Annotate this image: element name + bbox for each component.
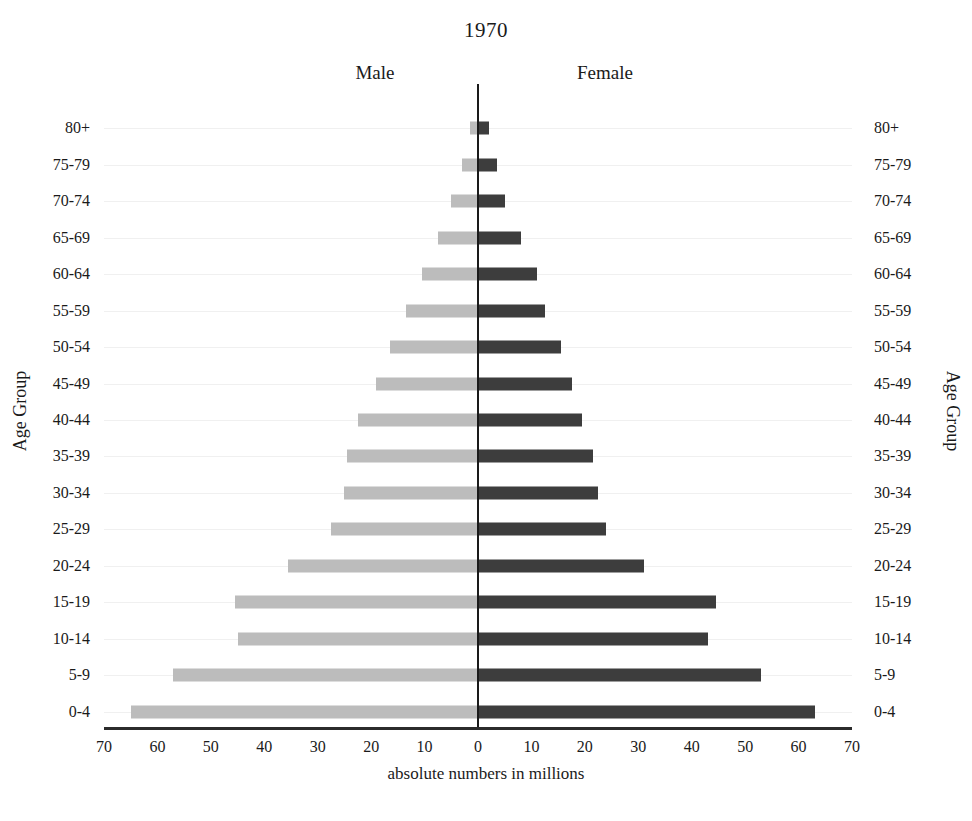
x-axis-tick-label: 30 (630, 738, 646, 756)
x-axis-tick-label: 0 (474, 738, 482, 756)
age-group-label-left: 45-49 (53, 375, 90, 393)
age-group-label-left: 40-44 (53, 411, 90, 429)
age-group-label-right: 35-39 (874, 447, 911, 465)
age-group-label-left: 0-4 (69, 703, 90, 721)
age-group-label-right: 10-14 (874, 630, 911, 648)
bar-female (478, 341, 561, 354)
age-group-label-left: 55-59 (53, 302, 90, 320)
bar-male (173, 669, 478, 682)
bar-male (406, 304, 478, 317)
x-axis-tick-label: 60 (149, 738, 165, 756)
age-group-label-right: 0-4 (874, 703, 895, 721)
x-axis-tick-label: 20 (363, 738, 379, 756)
x-axis-tick-label: 50 (203, 738, 219, 756)
age-group-label-right: 65-69 (874, 229, 911, 247)
bar-female (478, 450, 593, 463)
male-series-label: Male (300, 62, 450, 84)
bar-female (478, 669, 761, 682)
x-axis-tick-label: 10 (417, 738, 433, 756)
bar-female (478, 559, 644, 572)
age-group-label-right: 20-24 (874, 557, 911, 575)
bar-male (451, 195, 478, 208)
bar-male (422, 268, 478, 281)
age-group-label-left: 80+ (65, 119, 90, 137)
bar-female (478, 158, 497, 171)
bar-female (478, 377, 572, 390)
plot-area: 0-40-45-95-910-1410-1415-1915-1920-2420-… (104, 110, 852, 730)
age-group-label-left: 50-54 (53, 338, 90, 356)
age-group-label-right: 5-9 (874, 666, 895, 684)
age-group-label-left: 5-9 (69, 666, 90, 684)
bar-female (478, 231, 521, 244)
bar-male (358, 413, 478, 426)
age-group-label-right: 55-59 (874, 302, 911, 320)
age-group-label-left: 30-34 (53, 484, 90, 502)
population-pyramid-chart: 1970 Male Female Age Group Age Group 0-4… (0, 0, 972, 821)
bar-male (288, 559, 478, 572)
bar-female (478, 195, 505, 208)
bar-female (478, 122, 489, 135)
age-group-label-right: 30-34 (874, 484, 911, 502)
chart-title: 1970 (0, 18, 972, 43)
bar-female (478, 304, 545, 317)
age-group-label-right: 60-64 (874, 265, 911, 283)
age-group-label-left: 35-39 (53, 447, 90, 465)
bar-female (478, 268, 537, 281)
age-group-label-right: 80+ (874, 119, 899, 137)
bar-male (331, 523, 478, 536)
bar-female (478, 632, 708, 645)
bar-female (478, 596, 716, 609)
x-axis-baseline (104, 727, 852, 730)
age-group-label-right: 45-49 (874, 375, 911, 393)
age-group-label-right: 25-29 (874, 520, 911, 538)
bar-female (478, 705, 815, 718)
bar-male (235, 596, 478, 609)
x-axis-tick-label: 10 (523, 738, 539, 756)
bar-male (462, 158, 478, 171)
age-group-label-right: 40-44 (874, 411, 911, 429)
x-axis-tick-label: 40 (256, 738, 272, 756)
age-group-label-left: 60-64 (53, 265, 90, 283)
bar-female (478, 413, 582, 426)
age-group-label-right: 15-19 (874, 593, 911, 611)
age-group-label-right: 70-74 (874, 192, 911, 210)
x-axis-tick-label: 70 (96, 738, 112, 756)
bar-female (478, 523, 606, 536)
y-axis-title-right: Age Group (941, 370, 962, 450)
female-series-label: Female (530, 62, 680, 84)
age-group-label-left: 25-29 (53, 520, 90, 538)
x-axis-tick-label: 60 (791, 738, 807, 756)
age-group-label-left: 10-14 (53, 630, 90, 648)
x-axis-tick-label: 50 (737, 738, 753, 756)
x-axis-title: absolute numbers in millions (0, 764, 972, 784)
bar-male (390, 341, 478, 354)
age-group-label-left: 70-74 (53, 192, 90, 210)
y-axis-title-left: Age Group (10, 370, 31, 450)
bar-male (344, 486, 478, 499)
x-axis-tick-label: 30 (310, 738, 326, 756)
age-group-label-left: 65-69 (53, 229, 90, 247)
age-group-label-right: 50-54 (874, 338, 911, 356)
age-group-label-right: 75-79 (874, 156, 911, 174)
age-group-label-left: 75-79 (53, 156, 90, 174)
x-axis-tick-label: 40 (684, 738, 700, 756)
bar-male (131, 705, 478, 718)
x-axis-tick-label: 70 (844, 738, 860, 756)
bar-female (478, 486, 598, 499)
x-axis-tick-label: 20 (577, 738, 593, 756)
center-axis-line (477, 84, 479, 730)
age-group-label-left: 15-19 (53, 593, 90, 611)
age-group-label-left: 20-24 (53, 557, 90, 575)
bar-male (438, 231, 478, 244)
bar-male (238, 632, 478, 645)
bar-male (347, 450, 478, 463)
bar-male (376, 377, 478, 390)
